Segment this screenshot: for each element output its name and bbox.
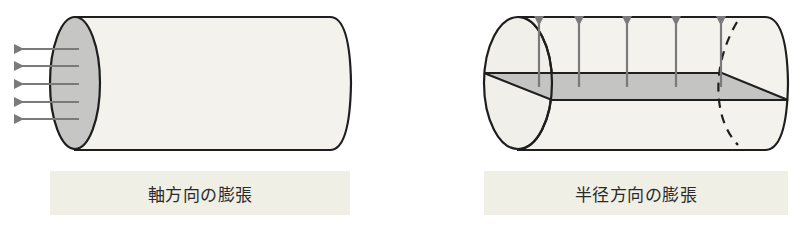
axial-cylinder-body bbox=[75, 17, 351, 150]
expansion-diagram: 軸方向の膨張 半径方向の膨張 bbox=[0, 0, 801, 233]
caption-radial-expansion: 半径方向の膨張 bbox=[484, 171, 788, 215]
radial-cylinder bbox=[484, 17, 788, 150]
axial-cylinder bbox=[50, 17, 351, 150]
caption-axial-expansion: 軸方向の膨張 bbox=[50, 171, 350, 215]
